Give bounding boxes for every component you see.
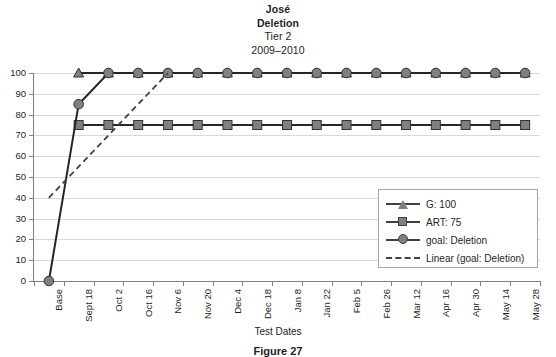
- y-axis-tick-mark: [29, 260, 34, 261]
- x-axis-tick-mark: [183, 281, 184, 286]
- x-axis-tick-mark: [242, 281, 243, 286]
- x-axis-tick-mark: [451, 281, 452, 286]
- figure-caption: Figure 27: [0, 345, 556, 357]
- x-axis-tick-mark: [302, 281, 303, 286]
- x-axis-tick-label: Nov 20: [202, 289, 213, 319]
- gridline: [34, 94, 540, 95]
- legend-item-g-100: G: 100: [379, 195, 537, 213]
- legend-label: ART: 75: [426, 217, 461, 228]
- x-axis-tick-label: May 14: [500, 289, 511, 320]
- y-axis-tick-mark: [29, 73, 34, 74]
- x-axis-tick-label: Mar 12: [411, 289, 422, 319]
- y-axis-tick-mark: [29, 94, 34, 95]
- chart-title-block: José Deletion Tier 2 2009–2010: [0, 3, 556, 57]
- x-axis-tick-label: Jan 8: [292, 289, 303, 312]
- legend-item-linear-trendline: Linear (goal: Deletion): [379, 249, 537, 267]
- chart-title-line-4: 2009–2010: [0, 44, 556, 58]
- y-axis-tick-label: 40: [0, 192, 26, 203]
- chart-title-line-3: Tier 2: [0, 30, 556, 44]
- chart-title-line-1: José: [0, 3, 556, 17]
- y-axis-tick-label: 90: [0, 88, 26, 99]
- legend-label: G: 100: [426, 199, 456, 210]
- y-axis-tick-mark: [29, 115, 34, 116]
- x-axis-tick-mark: [332, 281, 333, 286]
- y-axis-tick-label: 60: [0, 150, 26, 161]
- x-axis-title: Test Dates: [0, 326, 556, 337]
- x-axis-tick-label: Base: [53, 289, 64, 311]
- y-axis-tick-label: 0: [0, 275, 26, 286]
- x-axis-tick-label: Oct 2: [113, 289, 124, 312]
- y-axis-tick-label: 20: [0, 233, 26, 244]
- gridline: [34, 177, 540, 178]
- legend-label: Linear (goal: Deletion): [426, 253, 524, 264]
- x-axis-tick-label: Oct 16: [143, 289, 154, 317]
- y-axis-tick-mark: [29, 198, 34, 199]
- y-axis-tick-mark: [29, 219, 34, 220]
- y-axis-tick-label: 50: [0, 171, 26, 182]
- gridline: [34, 73, 540, 74]
- y-axis-tick-label: 70: [0, 129, 26, 140]
- gridline: [34, 281, 540, 282]
- y-axis-tick-label: 100: [0, 67, 26, 78]
- x-axis-tick-mark: [510, 281, 511, 286]
- x-axis-tick-label: May 28: [530, 289, 541, 320]
- legend-triangle-marker-icon: [386, 197, 420, 211]
- x-axis-tick-mark: [361, 281, 362, 286]
- x-axis-tick-mark: [153, 281, 154, 286]
- x-axis-tick-mark: [64, 281, 65, 286]
- legend-item-art-75: ART: 75: [379, 213, 537, 231]
- y-axis-tick-mark: [29, 135, 34, 136]
- x-axis-tick-label: Apr 30: [470, 289, 481, 317]
- y-axis-tick-label: 10: [0, 254, 26, 265]
- y-axis-tick-label: 80: [0, 109, 26, 120]
- gridline: [34, 156, 540, 157]
- x-axis-tick-mark: [94, 281, 95, 286]
- x-axis-tick-mark: [540, 281, 541, 286]
- legend-label: goal: Deletion: [426, 235, 487, 246]
- x-axis-tick-mark: [34, 281, 35, 286]
- y-axis-tick-mark: [29, 156, 34, 157]
- x-axis-tick-label: Sept 18: [83, 289, 94, 322]
- gridline: [34, 115, 540, 116]
- x-axis-tick-mark: [391, 281, 392, 286]
- gridline: [34, 135, 540, 136]
- x-axis-tick-label: Apr 16: [440, 289, 451, 317]
- chart-title-line-2: Deletion: [0, 17, 556, 31]
- y-axis-tick-mark: [29, 177, 34, 178]
- x-axis-tick-label: Feb 5: [351, 289, 362, 313]
- x-axis-tick-mark: [213, 281, 214, 286]
- chart-legend: G: 100 ART: 75 goal: Deletion Linear (go…: [378, 189, 538, 268]
- x-axis-tick-mark: [480, 281, 481, 286]
- legend-item-goal-deletion: goal: Deletion: [379, 231, 537, 249]
- x-axis-tick-mark: [272, 281, 273, 286]
- x-axis-tick-mark: [421, 281, 422, 286]
- x-axis-tick-label: Feb 26: [381, 289, 392, 319]
- x-axis-tick-label: Jan 22: [321, 289, 332, 318]
- legend-square-marker-icon: [386, 215, 420, 229]
- x-axis-tick-mark: [123, 281, 124, 286]
- y-axis-tick-label: 30: [0, 213, 26, 224]
- x-axis-tick-label: Nov 6: [172, 289, 183, 314]
- x-axis-tick-label: Dec 4: [232, 289, 243, 314]
- legend-circle-marker-icon: [386, 233, 420, 247]
- legend-dashed-line-icon: [386, 251, 420, 265]
- y-axis-tick-mark: [29, 239, 34, 240]
- x-axis-tick-label: Dec 18: [262, 289, 273, 319]
